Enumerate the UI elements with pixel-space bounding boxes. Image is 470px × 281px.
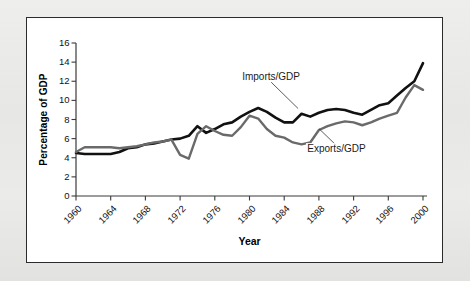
y-tick-label: 6 [48, 133, 70, 144]
series-line-exports-gdp [76, 85, 423, 159]
y-tick-label: 0 [48, 190, 70, 201]
x-axis-title: Year [239, 235, 261, 247]
annotation-label-imports: Imports/GDP [241, 71, 301, 82]
y-tick-label: 8 [48, 114, 70, 125]
chart-figure: 0246810121416196019641968197219761980198… [0, 0, 470, 281]
y-tick-label: 2 [48, 171, 70, 182]
y-tick-label: 14 [48, 56, 70, 67]
leader-line [271, 82, 298, 108]
y-tick-label: 16 [48, 37, 70, 48]
y-axis-title: Percentage of GDP [38, 73, 49, 165]
y-tick-label: 12 [48, 75, 70, 86]
y-tick-label: 10 [48, 94, 70, 105]
y-tick-label: 4 [48, 152, 70, 163]
annotation-label-exports: Exports/GDP [306, 143, 366, 154]
